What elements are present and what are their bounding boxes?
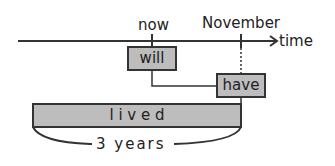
lived-label: l i v e d [109, 106, 164, 124]
will-box: will [127, 46, 177, 71]
have-label: have [223, 76, 260, 94]
will-have-connector [152, 71, 216, 86]
time-label: time [279, 34, 313, 49]
span-label: 3 years [96, 137, 166, 152]
lived-box: l i v e d [32, 103, 242, 128]
will-label: will [140, 49, 165, 67]
now-label: now [138, 18, 169, 33]
have-box: have [216, 73, 266, 98]
november-label: November [202, 16, 280, 31]
